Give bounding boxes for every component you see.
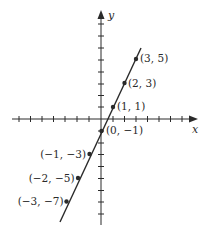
- point-label: (0, −1): [106, 124, 143, 136]
- x-axis-arrow-icon: [189, 116, 198, 123]
- point-label: (−2, −5): [29, 172, 75, 184]
- point-1-1: [111, 105, 115, 109]
- point-3-5: [134, 57, 138, 61]
- point-neg2-neg5: [76, 176, 80, 180]
- point-neg1-neg3: [87, 152, 91, 156]
- point-2-3: [122, 81, 126, 85]
- x-axis-label: x: [192, 123, 199, 136]
- point-label: (1, 1): [117, 100, 145, 112]
- coordinate-plane: x y (3, 5) (2, 3) (1, 1) (0, −1) (−1, −3…: [0, 0, 206, 229]
- y-axis-label: y: [107, 9, 115, 22]
- y-axis-arrow-icon: [98, 10, 105, 19]
- point-neg3-neg7: [64, 199, 68, 203]
- point-0-neg1: [99, 129, 103, 133]
- point-label: (−1, −3): [40, 148, 86, 160]
- point-label: (3, 5): [140, 52, 168, 64]
- point-label: (−3, −7): [18, 195, 64, 207]
- point-label: (2, 3): [128, 77, 156, 89]
